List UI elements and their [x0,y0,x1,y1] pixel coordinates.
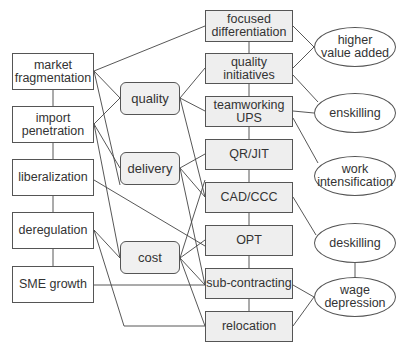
connector-line [293,285,314,297]
connector-line [180,240,205,258]
connector-line [293,47,314,68]
practice-box-opt: OPT [205,225,293,256]
connector-line [293,297,314,326]
driver-box-ip: import penetration [12,106,94,143]
strategy-box-d: delivery [120,152,180,185]
connector-line [94,71,120,185]
connector-line [180,154,205,168]
connector-line [94,26,205,71]
practice-box-tw: teamworking UPS [205,96,293,127]
practice-box-qi: quality initiatives [205,53,293,84]
practice-box-cad: CAD/CCC [205,182,293,213]
connector-line [293,111,314,113]
connector-line [94,71,120,98]
driver-box-dereg: deregulation [12,212,94,249]
connector-line [180,68,205,98]
practice-box-sub: sub-contracting [205,268,293,299]
strategy-box-c: cost [120,241,180,274]
driver-box-sme: SME growth [12,266,94,303]
connector-line [180,180,205,258]
connector-line [94,180,205,246]
connector-line [180,98,205,111]
connector-line [180,258,205,285]
diagram-canvas: market fragmentationimport penetrationli… [0,0,407,354]
connector-line [94,98,120,124]
outcome-ellipse-wd: wage depression [314,277,396,317]
outcome-ellipse-wi: work intensification [314,156,396,196]
driver-box-mf: market fragmentation [12,53,94,90]
strategy-box-q: quality [120,82,180,115]
connector-line [293,26,314,47]
connector-line [94,124,120,258]
outcome-ellipse-hva: higher value added [314,27,396,67]
connector-line [293,118,318,163]
outcome-ellipse-desk: deskilling [314,223,396,263]
practice-box-fd: focused differentiation [205,10,293,42]
practice-box-rel: relocation [205,311,293,342]
connector-line [293,197,316,235]
connector-line [293,75,318,102]
practice-box-qr: QR/JIT [205,139,293,170]
connector-line [94,230,120,258]
driver-box-lib: liberalization [12,159,94,196]
outcome-ellipse-ensk: enskilling [314,93,396,133]
